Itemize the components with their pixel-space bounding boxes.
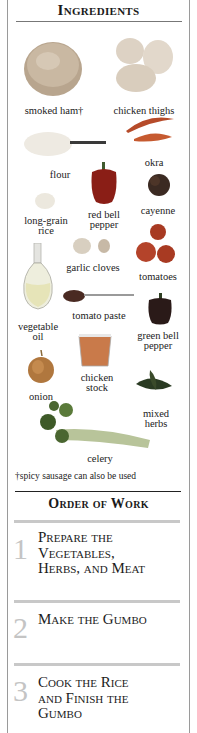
ham-icon — [20, 37, 86, 97]
herbs-icon — [132, 366, 174, 396]
ingredient-okra: okra — [134, 158, 174, 168]
ingredient-long-grain-rice: long-grain rice — [16, 216, 76, 236]
rice-icon — [34, 191, 56, 211]
ingredient-tomatoes: tomatoes — [132, 272, 184, 282]
tomato-paste-icon — [62, 288, 136, 304]
oil-bottle-icon — [20, 243, 56, 313]
divider — [14, 663, 180, 666]
celery-icon — [36, 396, 152, 452]
ingredient-green-bell-pepper: green bell pepper — [130, 331, 186, 351]
stock-icon — [76, 334, 116, 368]
ingredient-garlic-cloves: garlic cloves — [58, 263, 128, 273]
ingredient-celery: celery — [78, 454, 122, 464]
step-number: 1 — [13, 534, 28, 564]
divider — [14, 600, 180, 603]
step-number: 3 — [13, 676, 28, 706]
onion-icon — [26, 350, 56, 384]
ingredient-flour: flour — [40, 170, 80, 180]
order-of-work-heading: Order of Work — [8, 496, 189, 512]
step-title[interactable]: Cook the Rice and Finish the Gumbo — [38, 675, 183, 722]
tomato-icon — [134, 224, 180, 266]
divider — [14, 520, 180, 523]
cayenne-icon — [145, 172, 173, 198]
ingredient-vegetable-oil: vegetable oil — [10, 322, 66, 342]
okra-icon — [124, 115, 176, 145]
green-pepper-icon — [146, 293, 174, 325]
red-pepper-icon — [88, 162, 120, 204]
ingredient-tomato-paste: tomato paste — [64, 311, 134, 321]
divider — [16, 21, 182, 22]
footnote: †spicy sausage can also be used — [15, 471, 136, 481]
step-number: 2 — [13, 613, 28, 643]
ingredient-smoked-ham: smoked ham† — [14, 106, 94, 116]
ingredient-cayenne: cayenne — [133, 206, 183, 216]
step-title[interactable]: Prepare the Vegetables, Herbs, and Meat — [38, 530, 183, 577]
ingredients-heading: Ingredients — [8, 2, 189, 19]
chicken-icon — [106, 35, 180, 95]
ingredient-red-bell-pepper: red bell pepper — [80, 210, 128, 230]
garlic-icon — [70, 234, 116, 256]
flour-icon — [22, 131, 114, 157]
divider — [15, 491, 181, 492]
ingredient-chicken-stock: chicken stock — [72, 373, 122, 393]
step-title[interactable]: Make the Gumbo — [38, 612, 183, 628]
